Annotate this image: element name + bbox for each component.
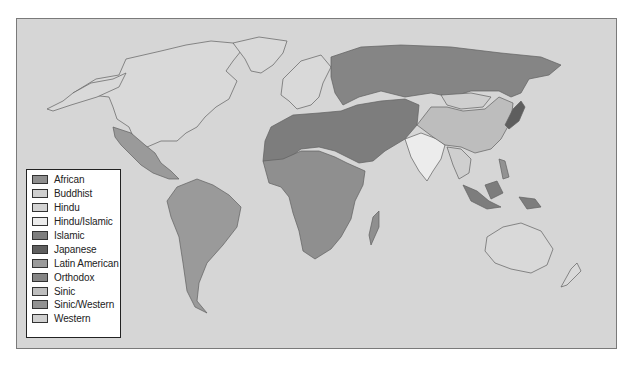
legend-item-hindu: Hindu	[32, 201, 120, 215]
legend-label: Orthodox	[54, 272, 94, 283]
legend-item-sinic: Sinic	[32, 284, 120, 298]
legend-item-latin-american: Latin American	[32, 256, 120, 270]
region-new-guinea	[519, 197, 541, 209]
region-philippines	[499, 159, 509, 179]
legend-item-african: African	[32, 173, 120, 187]
swatch-african	[32, 175, 48, 184]
legend-item-sinic-western: Sinic/Western	[32, 298, 120, 312]
map-legend: African Buddhist Hindu Hindu/Islamic Isl…	[26, 169, 121, 338]
legend-item-orthodox: Orthodox	[32, 270, 120, 284]
legend-label: Sinic/Western	[54, 299, 114, 310]
region-western-europe	[281, 55, 331, 109]
swatch-hindu-islamic	[32, 217, 48, 226]
legend-label: Buddhist	[54, 188, 92, 199]
legend-label: Latin American	[54, 258, 119, 269]
region-greenland	[233, 37, 287, 73]
swatch-sinic	[32, 287, 48, 296]
swatch-western	[32, 314, 48, 323]
region-madagascar	[369, 211, 379, 245]
swatch-latin-american	[32, 259, 48, 268]
region-southeast-asia	[447, 147, 471, 179]
region-new-zealand	[561, 263, 581, 287]
legend-item-western: Western	[32, 312, 120, 326]
legend-label: Japanese	[54, 244, 97, 255]
legend-label: Hindu	[54, 202, 80, 213]
legend-label: Hindu/Islamic	[54, 216, 113, 227]
legend-label: African	[54, 174, 84, 185]
legend-label: Islamic	[54, 230, 84, 241]
region-australia	[485, 223, 553, 273]
legend-item-buddhist: Buddhist	[32, 187, 120, 201]
swatch-orthodox	[32, 273, 48, 282]
region-sub-saharan-africa	[263, 151, 365, 259]
legend-item-hindu-islamic: Hindu/Islamic	[32, 215, 120, 229]
legend-label: Western	[54, 313, 90, 324]
legend-label: Sinic	[54, 286, 75, 297]
legend-item-islamic: Islamic	[32, 229, 120, 243]
region-south-america	[167, 179, 241, 313]
swatch-hindu	[32, 203, 48, 212]
swatch-sinic-western	[32, 300, 48, 309]
swatch-japanese	[32, 245, 48, 254]
region-mongolia	[441, 93, 491, 109]
swatch-buddhist	[32, 189, 48, 198]
region-borneo	[485, 181, 503, 199]
legend-item-japanese: Japanese	[32, 242, 120, 256]
swatch-islamic	[32, 231, 48, 240]
